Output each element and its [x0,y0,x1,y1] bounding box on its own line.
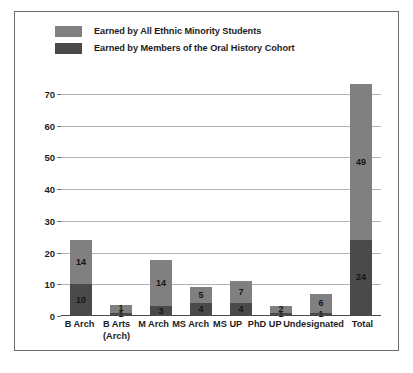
bar-value-label: 4 [198,305,203,314]
bar-segment-all-ethnic-minority[interactable]: 6 [310,294,333,313]
bar-segment-all-ethnic-minority[interactable]: 14 [70,240,93,284]
plot-area: 010203040506070 141011143547421614924 [61,78,381,316]
x-axis-labels: B ArchB Arts (Arch)M ArchMS ArchMS UPPhD… [61,319,381,342]
bar-segment-all-ethnic-minority[interactable]: 5 [190,287,213,303]
x-axis-label: M Arch [135,319,172,342]
legend-swatch-dark [55,43,82,54]
chart-frame: Earned by All Ethnic Minority Students E… [14,11,399,351]
bar-stack[interactable]: 143 [150,260,173,316]
x-axis-line [61,315,381,317]
bar-column[interactable]: 21 [261,78,301,316]
bar-column[interactable]: 143 [141,78,181,316]
bar-value-label: 24 [356,273,366,282]
bar-value-label: 10 [76,296,86,305]
y-tick-mark-0 [57,316,61,317]
gridline-0 [61,316,381,317]
bar-segment-oral-history-cohort[interactable]: 24 [350,240,373,316]
legend-item-all-ethnic-minority-students: Earned by All Ethnic Minority Students [55,24,294,38]
y-axis-tick-label-30: 30 [44,215,55,226]
bar-value-label: 7 [238,288,243,297]
bar-segment-all-ethnic-minority[interactable]: 14 [150,260,173,306]
bar-value-label: 14 [76,258,86,267]
x-axis-label: B Arts (Arch) [98,319,135,342]
x-axis-label: MS Arch [172,319,209,342]
bar-column[interactable]: 61 [301,78,341,316]
y-axis-tick-label-60: 60 [44,120,55,131]
bar-segment-all-ethnic-minority[interactable]: 1 [110,305,133,313]
legend-item-oral-history-cohort: Earned by Members of the Oral History Co… [55,41,294,55]
legend-label-oral-history-cohort: Earned by Members of the Oral History Co… [94,43,294,53]
y-axis-tick-label-10: 10 [44,279,55,290]
bar-value-label: 5 [198,291,203,300]
bar-value-label: 49 [356,158,366,167]
x-axis-label: Undesignated [283,319,344,342]
x-axis-label: Total [344,319,381,342]
y-axis-tick-label-0: 0 [50,311,55,322]
bar-column[interactable]: 4924 [341,78,381,316]
legend-label-all-ethnic-minority-students: Earned by All Ethnic Minority Students [94,26,261,36]
bar-segment-all-ethnic-minority[interactable]: 7 [230,281,253,303]
bar-column[interactable]: 11 [101,78,141,316]
bar-value-label: 14 [156,279,166,288]
y-axis-tick-label-70: 70 [44,88,55,99]
bar-stack[interactable]: 1410 [70,240,93,316]
bar-column[interactable]: 1410 [61,78,101,316]
chart-legend: Earned by All Ethnic Minority Students E… [55,24,294,58]
bar-segment-oral-history-cohort[interactable]: 10 [70,284,93,316]
bar-stack[interactable]: 74 [230,281,253,316]
x-axis-label: PhD UP [246,319,283,342]
y-axis-tick-label-40: 40 [44,184,55,195]
x-axis-label: MS UP [209,319,246,342]
y-axis-tick-label-50: 50 [44,152,55,163]
bar-stack[interactable]: 54 [190,287,213,316]
bar-series-group: 141011143547421614924 [61,78,381,316]
x-axis-label: B Arch [61,319,98,342]
y-axis-tick-label-20: 20 [44,247,55,258]
bar-stack[interactable]: 4924 [350,84,373,316]
legend-swatch-light [55,26,82,37]
bar-value-label: 4 [238,305,243,314]
bar-segment-all-ethnic-minority[interactable]: 49 [350,84,373,239]
bar-column[interactable]: 54 [181,78,221,316]
bar-value-label: 6 [318,299,323,308]
bar-column[interactable]: 74 [221,78,261,316]
bar-stack[interactable]: 61 [310,294,333,316]
